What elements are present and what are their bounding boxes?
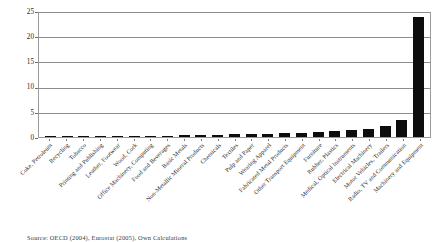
x-tick-label: Fabricated Metal Products <box>2 142 289 242</box>
x-tick-mark <box>150 139 151 141</box>
bar-slot <box>226 13 243 137</box>
y-tick-label: 0 <box>10 134 34 142</box>
bar-slot <box>393 13 410 137</box>
x-tick-mark <box>420 139 421 141</box>
chart-figure: 0510152025 Coke, PetroleumRecyclingTobac… <box>0 0 439 242</box>
x-tick-mark <box>285 139 286 141</box>
bar-slot <box>410 13 427 137</box>
bar <box>296 133 307 137</box>
x-tick-mark <box>403 139 404 141</box>
bar <box>145 136 156 137</box>
x-tick-label: Electrical Machinery <box>86 142 373 242</box>
bar-slot <box>276 13 293 137</box>
bar <box>78 136 89 137</box>
x-tick-mark <box>218 139 219 141</box>
x-tick-mark <box>83 139 84 141</box>
bar <box>262 134 273 137</box>
y-tick-label: 10 <box>10 83 34 91</box>
bar-slot <box>243 13 260 137</box>
bar <box>313 132 324 137</box>
x-tick-label: Machinery and Equipment <box>137 142 424 242</box>
y-tick-label: 20 <box>10 33 34 41</box>
bar <box>413 17 424 137</box>
x-tick-mark <box>268 139 269 141</box>
bar-slot <box>377 13 394 137</box>
x-tick-mark <box>335 139 336 141</box>
bar-slot <box>142 13 159 137</box>
source-note: Source: OECD (2004), Eurostat (2005), Ow… <box>27 234 187 241</box>
x-tick-mark <box>167 139 168 141</box>
bar-slot <box>92 13 109 137</box>
x-tick-mark <box>66 139 67 141</box>
bar <box>45 136 56 137</box>
bar-series <box>39 13 430 137</box>
bar <box>95 136 106 137</box>
bar-slot <box>75 13 92 137</box>
bar-slot <box>42 13 59 137</box>
bar <box>396 120 407 137</box>
bar <box>212 135 223 137</box>
bar <box>380 126 391 137</box>
bar-slot <box>193 13 210 137</box>
bar-slot <box>209 13 226 137</box>
bar-slot <box>343 13 360 137</box>
x-tick-label: Radio, TV and Communication <box>120 142 407 242</box>
x-tick-mark <box>100 139 101 141</box>
bar <box>162 136 173 138</box>
bar-slot <box>126 13 143 137</box>
x-tick-mark <box>319 139 320 141</box>
bar <box>279 133 290 137</box>
bar-slot <box>159 13 176 137</box>
y-tick-label: 25 <box>10 8 34 16</box>
x-tick-mark <box>49 139 50 141</box>
x-tick-mark <box>386 139 387 141</box>
bar <box>363 129 374 137</box>
x-tick-mark <box>251 139 252 141</box>
bar-slot <box>109 13 126 137</box>
bar <box>62 136 73 137</box>
bar-slot <box>293 13 310 137</box>
bar-slot <box>310 13 327 137</box>
x-tick-mark <box>369 139 370 141</box>
bar <box>246 134 257 137</box>
y-tick-label: 15 <box>10 58 34 66</box>
bar-slot <box>59 13 76 137</box>
y-tick-label: 5 <box>10 109 34 117</box>
x-tick-mark <box>201 139 202 141</box>
x-tick-label: Medical, Optical Instruments <box>69 142 356 242</box>
x-axis-labels: Coke, PetroleumRecyclingTobaccoPrinting … <box>38 139 431 231</box>
bar-slot <box>260 13 277 137</box>
x-tick-mark <box>352 139 353 141</box>
bar <box>112 136 123 137</box>
bar-slot <box>176 13 193 137</box>
x-tick-mark <box>302 139 303 141</box>
bar <box>129 136 140 137</box>
x-tick-label: Other Transport Equipment <box>19 142 306 242</box>
x-tick-label: Furniture <box>36 142 323 242</box>
bar-slot <box>326 13 343 137</box>
bar <box>195 135 206 137</box>
x-tick-mark <box>117 139 118 141</box>
x-tick-label: Rubber, Plastics <box>53 142 340 242</box>
x-tick-label: Motor Vehicles, Trailers <box>103 142 390 242</box>
plot-area <box>38 12 431 138</box>
x-tick-mark <box>184 139 185 141</box>
bar <box>329 131 340 137</box>
bar <box>229 134 240 137</box>
bar <box>179 135 190 137</box>
bar-slot <box>360 13 377 137</box>
bar <box>346 130 357 137</box>
